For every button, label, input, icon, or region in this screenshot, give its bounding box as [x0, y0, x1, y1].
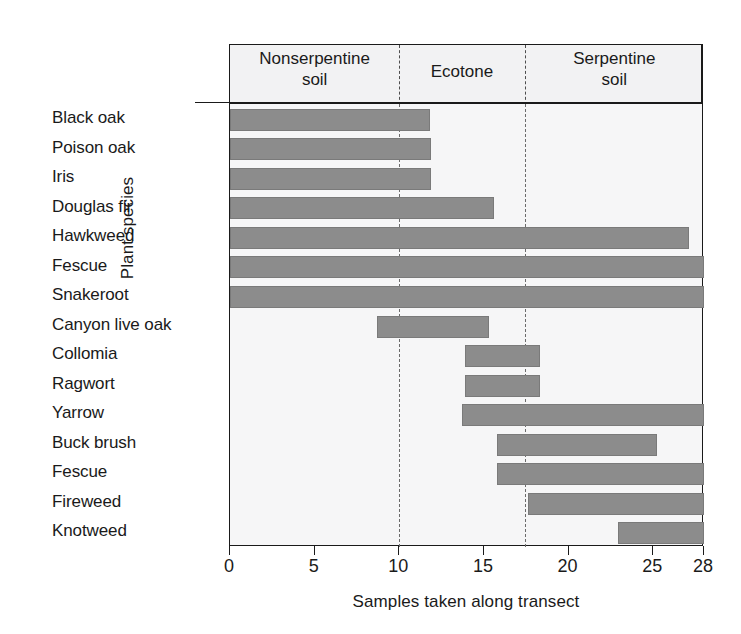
x-axis-title: Samples taken along transect — [229, 592, 703, 612]
x-axis-tick-label: 25 — [630, 556, 674, 577]
bar — [377, 316, 489, 338]
y-axis-tick-label: Iris — [52, 162, 224, 192]
x-axis-tick-label: 28 — [681, 556, 725, 577]
y-axis-tick-label: Fescue — [52, 457, 224, 487]
x-axis-tick-label: 15 — [461, 556, 505, 577]
y-axis-tick-label: Collomia — [52, 339, 224, 369]
bar — [230, 256, 704, 278]
bar — [465, 375, 539, 397]
y-axis-tick-label: Yarrow — [52, 398, 224, 428]
x-axis-tick-label: 5 — [292, 556, 336, 577]
bar — [230, 197, 494, 219]
y-axis-tick-label: Knotweed — [52, 516, 224, 546]
y-axis-tick-label: Fireweed — [52, 487, 224, 517]
soil-zone-divider-header — [399, 45, 400, 105]
y-axis-tick-labels: Black oakPoison oakIrisDouglas firHawkwe… — [52, 103, 224, 546]
soil-zone-title-line: Nonserpentine — [230, 49, 399, 70]
soil-zone-title-line: Serpentine — [525, 49, 704, 70]
x-axis-tick — [483, 546, 484, 555]
x-axis-tick-label: 20 — [546, 556, 590, 577]
bar — [465, 345, 539, 367]
bar — [230, 227, 689, 249]
y-axis-tick-label: Black oak — [52, 103, 224, 133]
soil-zone-title-nonserpentine: Nonserpentinesoil — [230, 49, 399, 90]
plot-area — [229, 103, 703, 546]
soil-zone-divider-header — [525, 45, 526, 105]
bar — [497, 434, 656, 456]
y-axis-tick-label: Fescue — [52, 251, 224, 281]
y-axis-tick-label: Poison oak — [52, 133, 224, 163]
bar — [497, 463, 704, 485]
x-axis-tick-label: 10 — [376, 556, 420, 577]
soil-zone-title-ecotone: Ecotone — [399, 62, 524, 83]
bar — [528, 493, 704, 515]
x-axis-tick — [568, 546, 569, 555]
x-axis-tick — [314, 546, 315, 555]
soil-zone-header: NonserpentinesoilEcotoneSerpentinesoil — [229, 44, 703, 104]
bar-chart-figure: Plant species Black oakPoison oakIrisDou… — [0, 0, 741, 634]
y-axis-tick-label: Ragwort — [52, 369, 224, 399]
bar — [230, 109, 430, 131]
y-axis-tick-label: Buck brush — [52, 428, 224, 458]
x-axis-tick — [229, 546, 230, 555]
bar — [230, 138, 431, 160]
soil-zone-title-line: Ecotone — [399, 62, 524, 83]
soil-zone-title-line: soil — [230, 70, 399, 91]
y-axis-tick-label: Hawkweed — [52, 221, 224, 251]
bar — [618, 522, 704, 544]
x-axis-tick — [652, 546, 653, 555]
bar — [230, 286, 704, 308]
bar — [230, 168, 431, 190]
y-axis-tick-label: Canyon live oak — [52, 310, 224, 340]
soil-zone-title-line: soil — [525, 70, 704, 91]
y-axis-tick-label: Snakeroot — [52, 280, 224, 310]
x-axis-tick — [703, 546, 704, 555]
bar — [462, 404, 704, 426]
soil-zone-title-serpentine: Serpentinesoil — [525, 49, 704, 90]
x-axis-tick — [398, 546, 399, 555]
y-axis-tick-label: Douglas fir — [52, 192, 224, 222]
x-axis-tick-label: 0 — [207, 556, 251, 577]
x-axis-ticks — [229, 546, 703, 555]
